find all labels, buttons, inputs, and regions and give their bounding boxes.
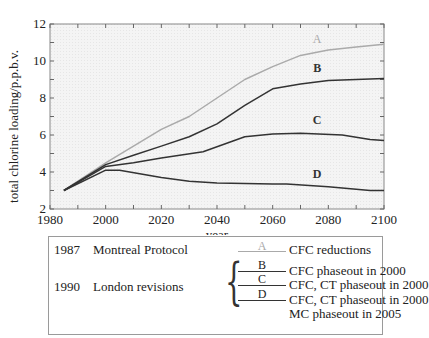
svg-text:2080: 2080 bbox=[315, 212, 341, 227]
svg-text:2040: 2040 bbox=[204, 212, 230, 227]
svg-text:2000: 2000 bbox=[93, 212, 119, 227]
legend-sample-a: A bbox=[238, 239, 286, 253]
svg-text:2100: 2100 bbox=[371, 212, 397, 227]
series-label-b: B bbox=[313, 61, 321, 75]
svg-text:4: 4 bbox=[40, 164, 47, 179]
montreal-year: 1987 bbox=[54, 243, 80, 257]
x-axis-tick-labels: 1980200020202040206020802100 bbox=[37, 212, 397, 227]
svg-text:6: 6 bbox=[40, 127, 47, 142]
svg-text:2060: 2060 bbox=[260, 212, 286, 227]
legend-desc-a: CFC reductions bbox=[289, 243, 371, 257]
svg-text:2020: 2020 bbox=[148, 212, 174, 227]
y-axis-tick-labels: 24681012 bbox=[33, 16, 47, 216]
svg-text:12: 12 bbox=[33, 16, 46, 31]
legend-desc-d2: MC phaseout in 2005 bbox=[289, 307, 401, 321]
legend-sample-b: B bbox=[238, 258, 286, 272]
legend-sample-c: C bbox=[238, 272, 286, 286]
london-year: 1990 bbox=[54, 280, 80, 294]
svg-text:8: 8 bbox=[40, 90, 47, 105]
x-axis-label: year bbox=[206, 227, 229, 235]
legend-box: 1987 Montreal Protocol A CFC reductions … bbox=[48, 236, 383, 335]
london-revisions-label: London revisions bbox=[93, 280, 184, 294]
legend-desc-b: CFC phaseout in 2000 bbox=[289, 264, 406, 278]
legend-sample-d: D bbox=[238, 287, 286, 301]
line-chart: 24681012 1980200020202040206020802100 AB… bbox=[0, 0, 400, 235]
montreal-protocol-label: Montreal Protocol bbox=[93, 243, 188, 257]
plot-area bbox=[50, 24, 384, 209]
series-label-a: A bbox=[313, 32, 322, 46]
svg-text:10: 10 bbox=[33, 53, 46, 68]
legend-desc-c: CFC, CT phaseout in 2000 bbox=[289, 278, 429, 292]
series-label-d: D bbox=[313, 167, 322, 181]
legend-desc-d: CFC, CT phaseout in 2000 bbox=[289, 293, 429, 307]
svg-text:1980: 1980 bbox=[37, 212, 63, 227]
series-label-c: C bbox=[313, 113, 322, 127]
y-axis-label: total chlorine loading/p.p.b.v. bbox=[6, 50, 21, 203]
